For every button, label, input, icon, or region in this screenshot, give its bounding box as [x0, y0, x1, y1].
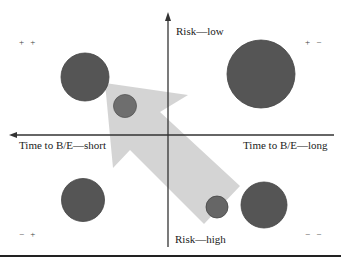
- quadrant-label-bottom-left: − +: [19, 230, 37, 239]
- y-axis-top-label: Risk—low: [176, 26, 224, 37]
- bubble-tl-small: [114, 95, 137, 118]
- bubble-tl-large: [61, 53, 109, 101]
- bubble-bl-medium: [62, 179, 105, 222]
- x-axis-right-label: Time to B/E—long: [243, 140, 328, 151]
- quadrant-label-top-right: + −: [305, 38, 323, 47]
- quadrant-diagram: [0, 0, 341, 263]
- bubble-tr-large: [227, 40, 295, 108]
- quadrant-label-top-left: + +: [19, 38, 37, 47]
- quadrant-label-bottom-right: − −: [305, 230, 323, 239]
- x-axis-left-label: Time to B/E—short: [19, 140, 106, 151]
- bubble-br-medium: [241, 182, 287, 228]
- y-axis-arrowhead-icon: [165, 12, 171, 21]
- y-axis-bottom-label: Risk—high: [175, 234, 226, 245]
- bubble-br-small: [206, 196, 228, 218]
- x-axis-arrowhead-icon: [9, 132, 17, 138]
